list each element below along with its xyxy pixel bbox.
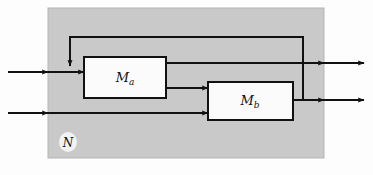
block-diagram-canvas: Ma Mb N xyxy=(0,0,373,175)
diagram-svg: Ma Mb N xyxy=(0,0,373,175)
panel-n-label: N xyxy=(62,136,74,150)
